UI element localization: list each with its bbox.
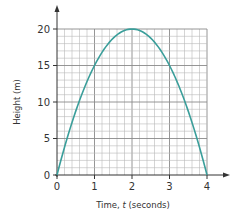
y-axis-label: Height (m) xyxy=(12,79,22,125)
y-tick-label: 15 xyxy=(37,60,50,71)
y-tick-label: 10 xyxy=(37,97,50,108)
x-tick-labels: 01234 xyxy=(54,175,210,192)
x-tick-label: 2 xyxy=(129,181,135,192)
y-tick-label: 20 xyxy=(37,24,50,35)
x-axis-label: Time, t (seconds) xyxy=(95,200,170,210)
y-tick-label: 5 xyxy=(44,133,50,144)
x-tick-label: 0 xyxy=(54,181,60,192)
y-axis-arrow-icon xyxy=(55,5,60,12)
y-tick-label: 0 xyxy=(44,170,50,181)
x-tick-label: 1 xyxy=(91,181,97,192)
x-tick-label: 4 xyxy=(204,181,210,192)
x-tick-label: 3 xyxy=(166,181,172,192)
height-time-chart: 01234 05101520 Time, t (seconds) Height … xyxy=(0,0,237,221)
x-axis-arrow-icon xyxy=(223,173,230,178)
y-tick-labels: 05101520 xyxy=(37,24,57,181)
